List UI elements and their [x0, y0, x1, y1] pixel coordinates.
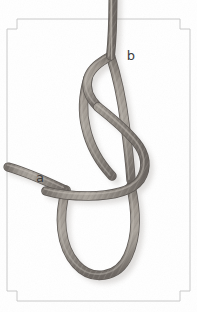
knot-illustration: a b: [0, 0, 197, 312]
knot-figure: a b: [0, 0, 197, 312]
paper-grain-overlay: [0, 0, 197, 312]
